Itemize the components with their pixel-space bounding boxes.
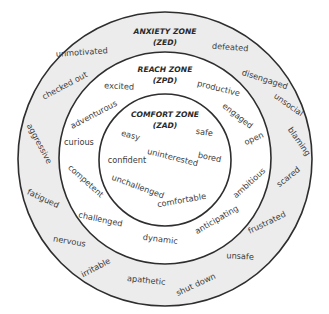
reach-word: curious xyxy=(64,137,94,147)
anxiety-word: unsafe xyxy=(226,250,254,261)
reach-word: excited xyxy=(104,80,134,92)
comfort-zone-code: (ZAD) xyxy=(153,121,178,130)
anxiety-zone-title: ANXIETY ZONE xyxy=(133,27,198,36)
reach-zone-code: (ZPD) xyxy=(153,76,177,85)
zones-diagram: ANXIETY ZONE (ZED) REACH ZONE (ZPD) COMF… xyxy=(0,0,329,314)
comfort-word: confident xyxy=(108,155,147,165)
reach-zone-title: REACH ZONE xyxy=(138,65,194,74)
comfort-zone-title: COMFORT ZONE xyxy=(131,110,200,119)
anxiety-zone-code: (ZED) xyxy=(153,38,177,47)
